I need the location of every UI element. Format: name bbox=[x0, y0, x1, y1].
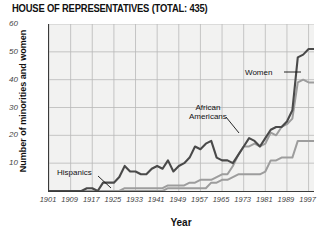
annotation-text: African bbox=[189, 103, 227, 112]
annotation-text: Women bbox=[245, 68, 272, 77]
y-axis-title: Number of minorities and women bbox=[18, 16, 28, 186]
annotation-african-americans: AfricanAmericans bbox=[189, 103, 227, 121]
y-tick-label: 40 bbox=[9, 75, 18, 84]
series-line-hispanics bbox=[49, 141, 314, 191]
annotation-text: Hispanics bbox=[57, 168, 92, 177]
annotation-hispanics: Hispanics bbox=[57, 168, 92, 177]
plot-area bbox=[48, 24, 314, 192]
y-tick-label: 10 bbox=[9, 158, 18, 167]
annotation-text: Americans bbox=[189, 112, 227, 121]
gridlines bbox=[49, 24, 314, 191]
y-tick-label: 50 bbox=[9, 47, 18, 56]
y-tick-label: 30 bbox=[9, 103, 18, 112]
chart-figure: HOUSE OF REPRESENTATIVES (TOTAL: 435) Nu… bbox=[0, 0, 334, 234]
leader-line bbox=[226, 117, 239, 133]
y-tick-label: 60 bbox=[9, 19, 18, 28]
x-tick-label: 1997 bbox=[294, 195, 322, 204]
chart-lines-svg bbox=[49, 24, 314, 191]
chart-title: HOUSE OF REPRESENTATIVES (TOTAL: 435) bbox=[12, 3, 208, 14]
x-axis-title: Year bbox=[48, 217, 314, 228]
y-tick-label: 20 bbox=[9, 130, 18, 139]
annotation-women: Women bbox=[245, 68, 272, 77]
